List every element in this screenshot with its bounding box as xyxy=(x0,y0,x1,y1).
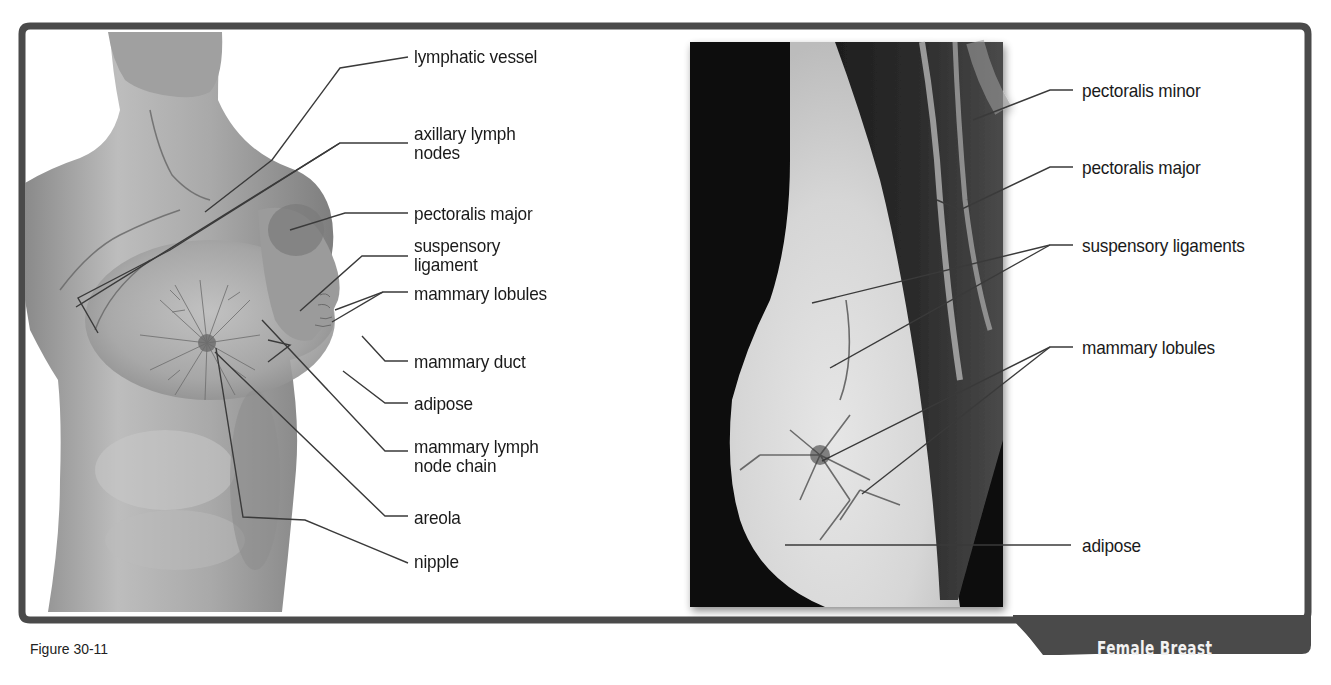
label-pectoralis-minor: pectoralis minor xyxy=(1082,81,1200,100)
label-suspensory-ligaments: suspensory ligaments xyxy=(1082,236,1245,255)
label-nipple: nipple xyxy=(414,552,459,571)
label-mammary-duct: mammary duct xyxy=(414,352,526,371)
label-axillary-lymph-nodes: axillary lymph nodes xyxy=(414,124,516,162)
figure-title: Female Breast xyxy=(1097,637,1241,659)
mri-cross-section xyxy=(690,42,1003,607)
label-pectoralis-major-mri: pectoralis major xyxy=(1082,158,1200,177)
figure-canvas: lymphatic vessel axillary lymph nodes pe… xyxy=(0,0,1331,685)
label-pectoralis-major: pectoralis major xyxy=(414,204,532,223)
label-suspensory-ligament: suspensory ligament xyxy=(414,236,500,274)
label-adipose-left: adipose xyxy=(414,394,473,413)
label-mammary-lobules: mammary lobules xyxy=(414,284,547,303)
label-areola: areola xyxy=(414,508,461,527)
label-mammary-lobules-mri: mammary lobules xyxy=(1082,338,1215,357)
label-adipose-mri: adipose xyxy=(1082,536,1141,555)
label-mammary-lymph-node-chain: mammary lymph node chain xyxy=(414,437,539,475)
label-lymphatic-vessel: lymphatic vessel xyxy=(414,47,537,66)
figure-caption: Figure 30-11 xyxy=(30,640,108,658)
